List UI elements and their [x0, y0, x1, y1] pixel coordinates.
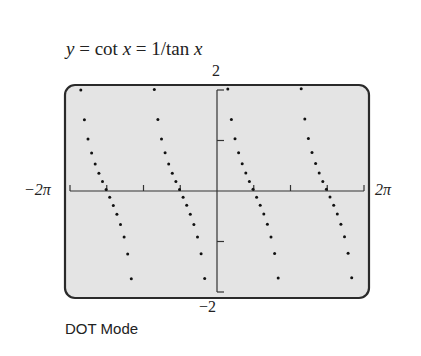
data-dot: [262, 213, 265, 216]
data-dot: [94, 163, 97, 166]
data-dot: [108, 196, 111, 199]
data-dot: [241, 162, 244, 165]
data-dot: [178, 188, 181, 191]
data-dot: [303, 118, 306, 121]
data-dot: [234, 137, 237, 140]
data-dot: [318, 172, 321, 175]
data-dot: [112, 204, 115, 207]
data-dot: [200, 252, 203, 255]
data-dot: [325, 188, 328, 191]
data-dot: [321, 180, 324, 183]
data-dot: [255, 196, 258, 199]
data-dot: [307, 137, 310, 140]
data-dot: [259, 204, 262, 207]
data-dot: [192, 223, 195, 226]
data-dot: [300, 87, 303, 90]
data-dot: [230, 118, 233, 121]
data-dot: [203, 277, 206, 280]
data-dot: [244, 172, 247, 175]
data-dot: [226, 88, 229, 91]
data-dot: [130, 277, 133, 280]
data-dot: [87, 138, 90, 141]
data-dot: [119, 223, 122, 226]
data-dot: [273, 252, 276, 255]
data-dot: [252, 188, 255, 191]
data-dot: [237, 151, 240, 154]
data-dot: [339, 223, 342, 226]
data-dot: [332, 204, 335, 207]
data-dot: [347, 252, 350, 255]
data-dot: [101, 180, 104, 183]
data-dot: [156, 118, 159, 121]
data-dot: [83, 118, 86, 121]
data-dot: [270, 235, 273, 238]
data-dot: [167, 162, 170, 165]
data-dot: [174, 180, 177, 183]
data-dot: [266, 223, 269, 226]
data-dot: [314, 162, 317, 165]
calculator-screen-plot: [0, 0, 421, 356]
data-dot: [115, 213, 118, 216]
data-dot: [182, 196, 185, 199]
data-dot: [185, 204, 188, 207]
data-dot: [123, 236, 126, 239]
data-dot: [329, 196, 332, 199]
data-dot: [311, 151, 314, 154]
data-dot: [343, 235, 346, 238]
data-dot: [160, 137, 163, 140]
data-dot: [97, 172, 100, 175]
data-dot: [277, 277, 280, 280]
data-dot: [196, 236, 199, 239]
data-dot: [105, 188, 108, 191]
data-dot: [189, 213, 192, 216]
data-dot: [153, 88, 156, 91]
data-dot: [79, 88, 82, 91]
data-dot: [171, 172, 174, 175]
data-dot: [90, 152, 93, 155]
data-dot: [248, 180, 251, 183]
data-dot: [350, 276, 353, 279]
data-dot: [336, 213, 339, 216]
data-dot: [126, 252, 129, 255]
data-dot: [164, 151, 167, 154]
